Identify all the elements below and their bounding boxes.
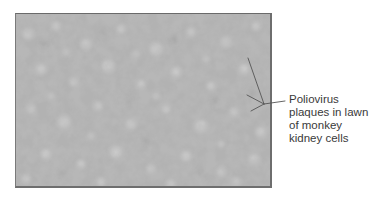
callout-line-2: plaques in lawn: [289, 106, 368, 119]
plaque-micrograph: [15, 13, 272, 188]
callout-line-4: kidney cells: [289, 132, 368, 145]
callout-line-3: of monkey: [289, 119, 368, 132]
callout-line-1: Poliovirus: [289, 93, 368, 106]
micrograph-texture: [16, 14, 272, 188]
callout-label: Poliovirus plaques in lawn of monkey kid…: [289, 93, 368, 145]
